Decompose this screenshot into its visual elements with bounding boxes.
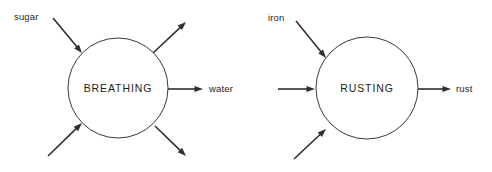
rusting-input-label-iron: iron bbox=[268, 12, 284, 23]
breathing-output-label-water: water bbox=[208, 83, 233, 94]
breathing-process-label: BREATHING bbox=[84, 82, 153, 94]
process-diagram-root: sugarwaterBREATHINGironrustRUSTING bbox=[0, 0, 492, 172]
breathing-input-input-lower-left-line bbox=[48, 128, 77, 156]
process-group-rusting: ironrustRUSTING bbox=[268, 12, 473, 159]
breathing-output-water-arrowhead-icon bbox=[195, 86, 204, 92]
breathing-input-sugar-line bbox=[53, 18, 78, 48]
rusting-output-label-rust: rust bbox=[456, 83, 473, 94]
rusting-input-input-left-arrowhead-icon bbox=[307, 86, 316, 92]
process-group-breathing: sugarwaterBREATHING bbox=[14, 11, 233, 156]
breathing-output-output-lower-right-line bbox=[155, 126, 181, 151]
rusting-output-rust-arrowhead-icon bbox=[443, 86, 452, 92]
diagram-canvas: sugarwaterBREATHINGironrustRUSTING bbox=[0, 0, 492, 172]
rusting-process-label: RUSTING bbox=[340, 82, 394, 94]
rusting-input-iron-line bbox=[296, 21, 322, 53]
rusting-input-input-lower-left-line bbox=[294, 134, 321, 159]
breathing-output-output-upper-right-line bbox=[153, 27, 181, 53]
breathing-input-label-sugar: sugar bbox=[14, 11, 39, 22]
